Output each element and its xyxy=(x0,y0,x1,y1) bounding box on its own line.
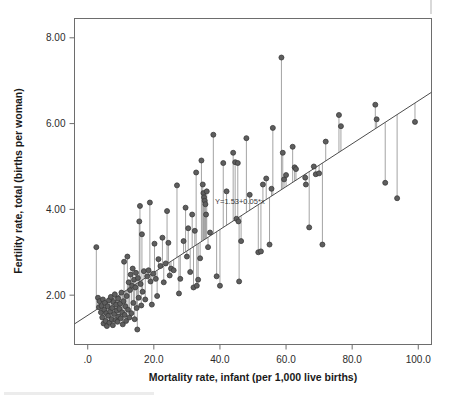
data-point xyxy=(166,240,171,245)
data-point xyxy=(133,285,138,290)
data-point xyxy=(269,186,274,191)
x-tick-label: 100.0 xyxy=(406,354,431,365)
data-point xyxy=(139,303,144,308)
data-point xyxy=(141,269,146,274)
data-point xyxy=(183,205,188,210)
data-point xyxy=(143,297,148,302)
data-point xyxy=(293,167,298,172)
data-point xyxy=(122,259,127,264)
data-point xyxy=(128,272,133,277)
data-point xyxy=(165,209,170,214)
data-point xyxy=(161,280,166,285)
scatter-plot-figure: 2.004.006.008.00 .020.040.060.080.0100.0… xyxy=(0,0,454,400)
x-tick-label: .0 xyxy=(84,354,93,365)
data-point xyxy=(139,232,144,237)
data-point xyxy=(137,219,142,224)
data-point xyxy=(158,264,163,269)
data-point xyxy=(208,230,213,235)
data-point xyxy=(231,150,236,155)
data-point xyxy=(134,306,139,311)
regression-equation-label: Y=1.53+0.05*x xyxy=(215,197,265,206)
data-point xyxy=(112,292,117,297)
data-point xyxy=(192,228,197,233)
scan-artifact-bottom xyxy=(4,392,154,395)
data-point xyxy=(160,235,165,240)
x-tick-label: 80.0 xyxy=(342,354,362,365)
data-point xyxy=(138,282,143,287)
data-point xyxy=(129,311,134,316)
data-point xyxy=(224,189,229,194)
data-point xyxy=(200,182,205,187)
data-point xyxy=(217,283,222,288)
y-tick-label: 8.00 xyxy=(46,32,66,43)
x-tick-label: 40.0 xyxy=(210,354,230,365)
data-point xyxy=(135,327,140,332)
data-point xyxy=(412,119,417,124)
data-point xyxy=(267,242,272,247)
data-point xyxy=(163,261,168,266)
x-tick-label: 20.0 xyxy=(144,354,164,365)
data-point xyxy=(156,257,161,262)
data-point xyxy=(239,239,244,244)
data-point xyxy=(260,182,265,187)
data-point xyxy=(110,323,115,328)
chart-canvas: 2.004.006.008.00 .020.040.060.080.0100.0… xyxy=(0,0,454,400)
data-point xyxy=(184,254,189,259)
data-point xyxy=(188,270,193,275)
y-tick-label: 4.00 xyxy=(46,204,66,215)
data-point xyxy=(167,273,172,278)
data-point xyxy=(174,183,179,188)
data-point xyxy=(153,276,158,281)
data-point xyxy=(132,317,137,322)
data-point xyxy=(146,268,151,273)
data-point xyxy=(131,300,136,305)
data-point xyxy=(145,274,150,279)
data-point xyxy=(121,299,126,304)
data-point xyxy=(211,132,216,137)
y-axis-title: Fertility rate, total (births per woman) xyxy=(12,88,24,274)
data-point xyxy=(133,270,138,275)
data-point xyxy=(137,203,142,208)
data-point xyxy=(338,124,343,129)
data-point xyxy=(196,277,201,282)
data-point xyxy=(244,136,249,141)
data-point xyxy=(264,176,269,181)
data-point xyxy=(203,202,208,207)
data-point xyxy=(311,164,316,169)
data-point xyxy=(395,196,400,201)
data-point xyxy=(181,239,186,244)
y-tick-label: 2.00 xyxy=(46,290,66,301)
data-point xyxy=(190,212,195,217)
data-point xyxy=(336,113,341,118)
data-point xyxy=(279,55,284,60)
data-point xyxy=(148,279,153,284)
data-point xyxy=(303,182,308,187)
data-point xyxy=(186,226,191,231)
data-point xyxy=(236,219,241,224)
data-point xyxy=(284,173,289,178)
data-point xyxy=(171,268,176,273)
data-point xyxy=(237,279,242,284)
data-point xyxy=(94,245,99,250)
data-point xyxy=(119,290,124,295)
data-point xyxy=(258,249,263,254)
data-point xyxy=(320,242,325,247)
data-point xyxy=(130,266,135,271)
scan-artifact-top-right xyxy=(430,0,432,14)
data-point xyxy=(194,283,199,288)
data-point xyxy=(270,125,275,130)
data-point xyxy=(383,180,388,185)
data-point xyxy=(206,245,211,250)
x-axis-title: Mortality rate, infant (per 1,000 live b… xyxy=(149,371,357,383)
data-point xyxy=(152,241,157,246)
data-point xyxy=(140,289,145,294)
data-point xyxy=(155,294,160,299)
data-point xyxy=(199,158,204,163)
data-point xyxy=(198,256,203,261)
data-point xyxy=(290,144,295,149)
data-point xyxy=(151,271,156,276)
data-point xyxy=(307,225,312,230)
data-point xyxy=(176,291,181,296)
data-point xyxy=(204,212,209,217)
data-point xyxy=(214,274,219,279)
